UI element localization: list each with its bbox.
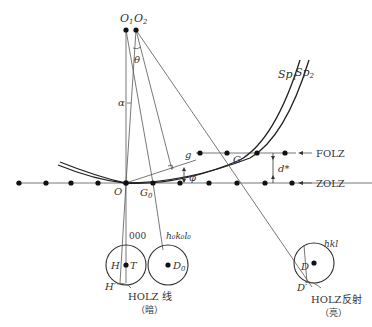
theta-arc	[133, 47, 141, 49]
transmitted-extension	[120, 183, 126, 283]
label-T: T	[130, 260, 138, 271]
disk-000-center	[123, 262, 128, 267]
label-O: O	[114, 186, 122, 197]
label-theta: θ	[134, 54, 140, 65]
label-G: G	[233, 154, 241, 165]
center-o1	[123, 27, 128, 32]
label-H: H	[110, 260, 120, 271]
label-phi: φ	[189, 172, 196, 183]
label-sp2: Sp2	[295, 66, 315, 80]
ewald-sphere-sp1	[58, 60, 300, 183]
label-h-prime: H′	[104, 281, 117, 292]
ewald-sphere-sp2	[60, 60, 309, 183]
label-hkl: hkl	[324, 239, 338, 249]
phi-arrow-head-down	[182, 179, 186, 183]
label-h0k0l0: h₀k₀l₀	[166, 231, 191, 241]
label-alpha: α	[118, 97, 125, 108]
g0-extension	[153, 183, 163, 250]
ray-o1-g0	[126, 30, 153, 183]
label-d-star: d*	[278, 163, 289, 174]
folz-pointer-head	[298, 151, 303, 155]
label-o1: O1	[120, 12, 134, 26]
disk-hkl-center	[311, 260, 316, 265]
holz-ewald-sphere-diagram: O1 O2 θ α Sp1 Sp2 g G φ d* FOLZ ZOLZ O G…	[0, 0, 372, 327]
phi-arrow-head-up	[182, 167, 186, 171]
ray-o2-o	[126, 30, 136, 183]
caption-holz-reflection-bright: （亮）	[320, 307, 347, 318]
caption-holz-line: HOLZ 线	[128, 290, 172, 302]
zolz-pointer-head	[298, 181, 303, 185]
d-star-arrow-top	[271, 156, 275, 160]
caption-holz-line-dark: （暗）	[136, 304, 163, 315]
label-D: D	[300, 261, 309, 272]
ray-o2-normal	[136, 30, 172, 170]
label-folz: FOLZ	[316, 148, 345, 159]
label-000: 000	[129, 231, 146, 241]
diagram-canvas: O1 O2 θ α Sp1 Sp2 g G φ d* FOLZ ZOLZ O G…	[0, 0, 372, 327]
label-g-small: g	[185, 149, 191, 160]
d-star-arrow-bottom	[271, 175, 275, 179]
label-zolz: ZOLZ	[316, 178, 345, 189]
label-d-prime: D′	[296, 282, 308, 293]
label-d0: D0	[172, 260, 186, 273]
caption-holz-reflection: HOLZ反射	[311, 294, 362, 305]
disk-h0k0l0-center	[165, 262, 170, 267]
label-o2: O2	[134, 12, 148, 26]
center-o2	[133, 27, 138, 32]
label-g0: G0	[140, 187, 153, 200]
